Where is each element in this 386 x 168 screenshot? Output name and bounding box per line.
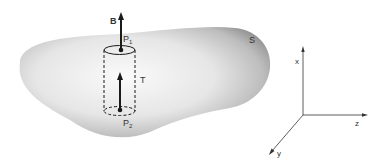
point-p1-dot	[119, 48, 124, 53]
y-axis	[272, 115, 303, 151]
z-axis-label: z	[355, 119, 359, 128]
point-p2-dot	[118, 108, 123, 113]
coordinate-axes	[269, 46, 368, 155]
field-label: B	[110, 16, 117, 26]
surface-label: S	[249, 35, 255, 45]
x-axis-label: x	[295, 57, 299, 66]
y-axis-label: y	[277, 149, 281, 158]
diagram-canvas: B P1 T P2 S x z y	[0, 0, 386, 168]
tube-label: T	[140, 75, 146, 85]
